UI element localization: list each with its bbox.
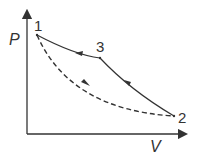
point-label-3: 3: [96, 39, 104, 54]
pv-diagram: [0, 0, 200, 161]
x-axis-label: V: [150, 139, 161, 155]
point-1: [36, 34, 38, 36]
arrow-icon-1-2: [81, 79, 90, 86]
point-2: [173, 115, 175, 117]
y-axis-label: P: [9, 32, 20, 48]
path-2-to-3: [100, 58, 174, 116]
point-label-2: 2: [178, 110, 186, 125]
path-3-to-1: [37, 35, 100, 58]
point-3: [99, 57, 101, 59]
point-label-1: 1: [34, 18, 42, 33]
path-1-to-2: [37, 35, 174, 116]
